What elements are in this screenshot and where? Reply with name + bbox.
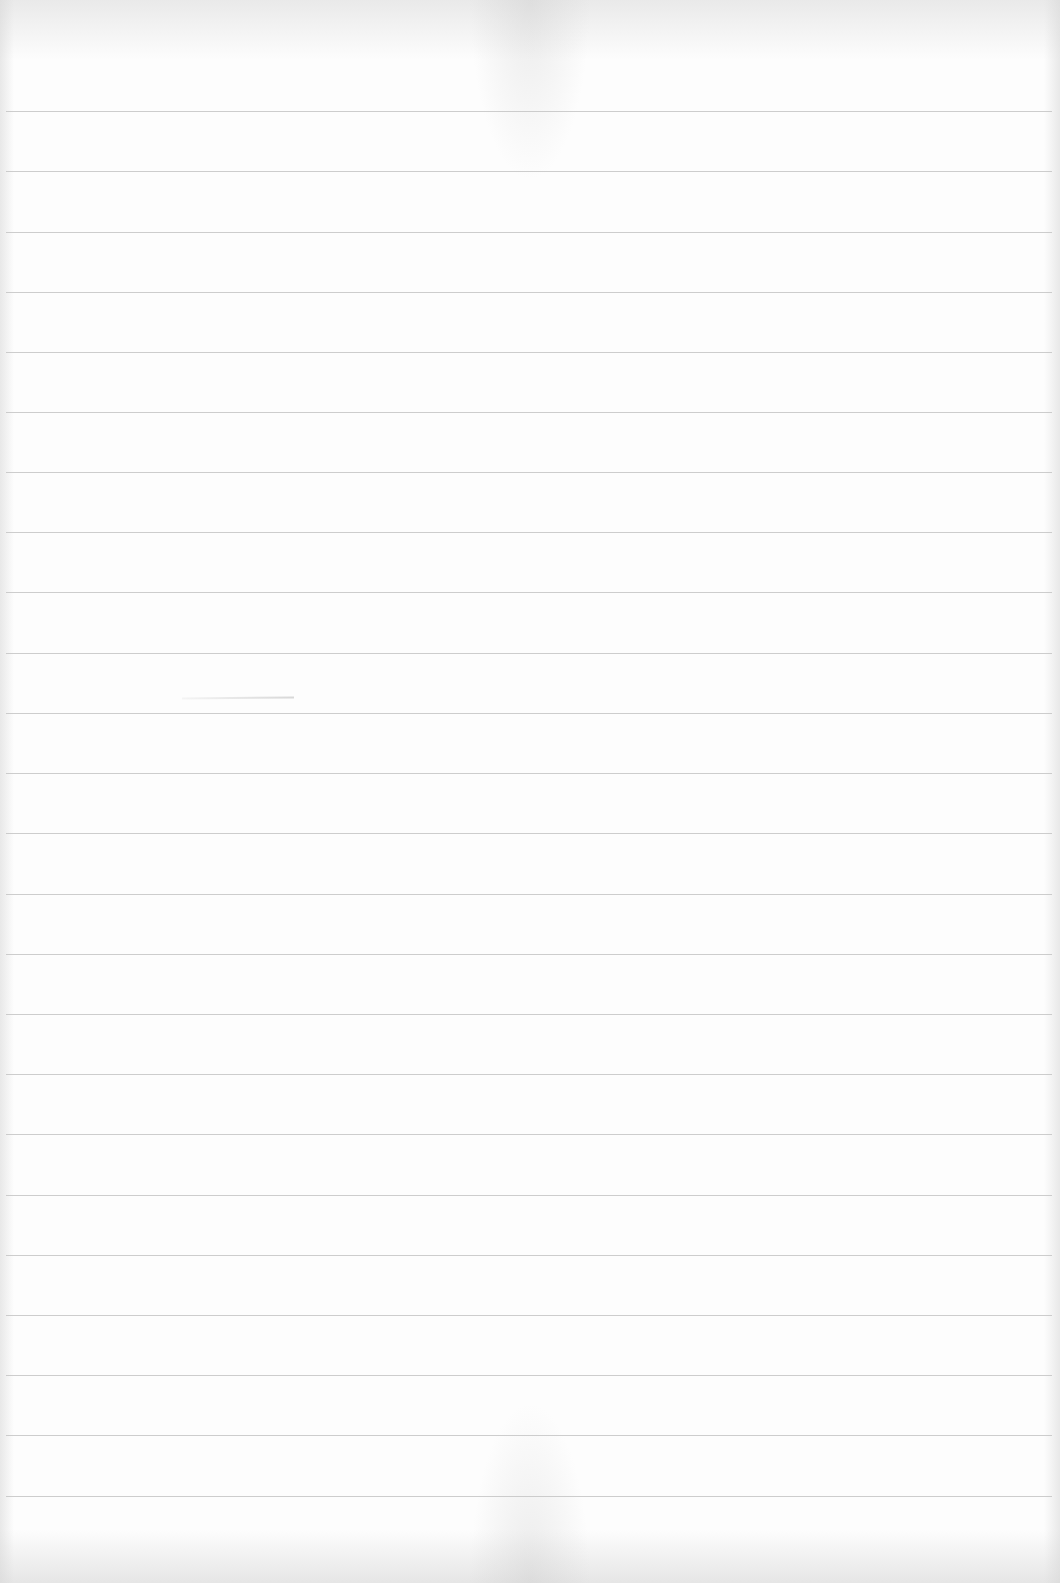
ruled-line — [6, 833, 1052, 834]
ruled-line — [6, 1496, 1052, 1497]
ruled-line — [6, 352, 1052, 353]
ruled-line — [6, 954, 1052, 955]
ruled-line — [6, 1255, 1052, 1256]
ruled-line — [6, 1074, 1052, 1075]
ruled-line — [6, 111, 1052, 112]
ruled-line — [6, 412, 1052, 413]
ruled-line — [6, 773, 1052, 774]
ruled-line — [6, 232, 1052, 233]
pencil-smudge-mark — [182, 696, 294, 699]
ruled-line — [6, 592, 1052, 593]
ruled-line — [6, 1315, 1052, 1316]
ruled-line — [6, 472, 1052, 473]
ruled-line — [6, 171, 1052, 172]
ruled-line — [6, 894, 1052, 895]
ruled-line — [6, 713, 1052, 714]
ruled-line — [6, 292, 1052, 293]
ruled-line — [6, 1195, 1052, 1196]
lined-paper-sheet — [0, 0, 1060, 1583]
ruled-line — [6, 1435, 1052, 1436]
ruled-line — [6, 1375, 1052, 1376]
ruled-line — [6, 1014, 1052, 1015]
ruled-line — [6, 532, 1052, 533]
ruled-line — [6, 653, 1052, 654]
ruled-line — [6, 1134, 1052, 1135]
